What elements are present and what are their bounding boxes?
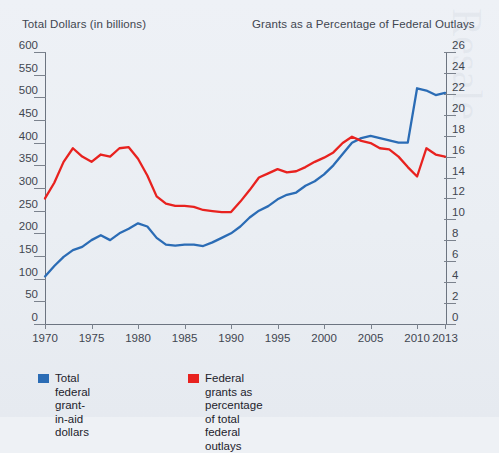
y-tick-label-left: 50 (4, 288, 38, 300)
y-tick-label-right: 20 (452, 102, 465, 114)
x-tick-label: 2013 (425, 332, 465, 344)
x-tick (92, 324, 93, 329)
x-tick-label: 1980 (118, 332, 158, 344)
y-tick-label-left: 400 (4, 130, 38, 142)
x-tick-label: 1970 (25, 332, 65, 344)
series-line (45, 137, 445, 212)
legend-swatch-icon (38, 374, 49, 383)
y-tick-right (444, 52, 456, 53)
y-tick-label-left: 500 (4, 84, 38, 96)
right-axis-title: Grants as a Percentage of Federal Outlay… (252, 18, 475, 30)
x-tick (45, 324, 46, 329)
y-tick-right (444, 136, 456, 137)
y-tick-label-left: 450 (4, 107, 38, 119)
x-tick-label: 2005 (351, 332, 391, 344)
x-tick-label: 1990 (211, 332, 251, 344)
x-tick (138, 324, 139, 329)
y-tick-label-right: 24 (452, 60, 465, 72)
y-tick-right (444, 261, 456, 262)
x-tick-label: 1995 (258, 332, 298, 344)
y-tick-right (444, 282, 456, 283)
legend-label: Federal grants as percentage of total fe… (205, 372, 263, 453)
y-tick-label-right: 0 (452, 311, 458, 323)
left-axis-title: Total Dollars (in billions) (22, 18, 146, 30)
y-tick-right (444, 94, 456, 95)
y-tick-label-left: 150 (4, 243, 38, 255)
y-tick-label-left: 100 (4, 266, 38, 278)
x-tick-label: 1985 (165, 332, 205, 344)
y-tick-right (444, 219, 456, 220)
y-tick-label-left: 0 (4, 311, 38, 323)
x-tick (324, 324, 325, 329)
y-tick-label-left: 350 (4, 152, 38, 164)
y-tick-label-left: 300 (4, 175, 38, 187)
y-tick-right (444, 115, 456, 116)
x-tick-label: 1975 (72, 332, 112, 344)
legend-label: Total federal grant-in-aid dollars (55, 372, 90, 440)
x-tick (371, 324, 372, 329)
series-line (45, 88, 445, 276)
y-tick-label-right: 22 (452, 81, 465, 93)
chart-plot-area (45, 52, 445, 324)
x-tick (278, 324, 279, 329)
x-tick (185, 324, 186, 329)
legend-swatch-icon (188, 374, 199, 383)
y-tick-label-right: 12 (452, 185, 465, 197)
y-tick-label-right: 14 (452, 165, 465, 177)
y-tick-label-right: 6 (452, 248, 458, 260)
y-tick-label-left: 200 (4, 220, 38, 232)
y-tick-right (444, 73, 456, 74)
legend-red[interactable]: Federal grants as percentage of total fe… (188, 372, 263, 453)
x-tick (445, 324, 446, 329)
x-tick-label: 2000 (304, 332, 344, 344)
y-tick-label-left: 550 (4, 62, 38, 74)
x-tick (417, 324, 418, 329)
y-tick-label-right: 8 (452, 227, 458, 239)
y-tick-label-right: 10 (452, 206, 465, 218)
y-tick-label-right: 18 (452, 123, 465, 135)
legend-blue[interactable]: Total federal grant-in-aid dollars (38, 372, 90, 440)
y-tick-label-right: 16 (452, 144, 465, 156)
x-tick (231, 324, 232, 329)
y-tick-label-right: 2 (452, 290, 458, 302)
y-tick-label-left: 250 (4, 198, 38, 210)
y-tick-label-right: 4 (452, 269, 458, 281)
y-tick-right (444, 303, 456, 304)
y-tick-right (444, 178, 456, 179)
y-tick-right (444, 198, 456, 199)
y-tick-right (444, 240, 456, 241)
y-tick-label-left: 600 (4, 39, 38, 51)
y-tick-label-right: 26 (452, 39, 465, 51)
